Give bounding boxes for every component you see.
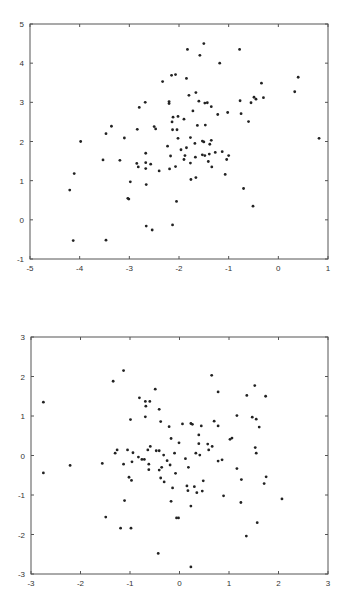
data-point bbox=[157, 552, 160, 555]
data-point bbox=[189, 565, 192, 568]
data-point bbox=[42, 401, 45, 404]
data-point bbox=[138, 396, 141, 399]
data-point bbox=[144, 415, 147, 418]
data-point bbox=[297, 76, 300, 79]
x-tick-label: 0 bbox=[276, 264, 281, 273]
data-point bbox=[123, 137, 126, 140]
data-point bbox=[155, 449, 158, 452]
data-point bbox=[148, 400, 151, 403]
x-tick-label: -3 bbox=[27, 579, 35, 588]
x-tick-label: 1 bbox=[326, 264, 331, 273]
x-tick-label: -2 bbox=[175, 264, 183, 273]
data-point bbox=[159, 477, 162, 480]
data-point bbox=[210, 105, 213, 108]
data-point bbox=[189, 162, 192, 165]
data-point bbox=[210, 139, 213, 142]
data-point bbox=[245, 394, 248, 397]
data-point bbox=[149, 445, 152, 448]
data-point bbox=[227, 154, 230, 157]
data-point bbox=[154, 128, 157, 131]
data-point bbox=[262, 96, 265, 99]
data-point bbox=[123, 499, 126, 502]
data-point bbox=[137, 166, 140, 169]
data-point bbox=[72, 239, 75, 242]
data-point bbox=[177, 517, 180, 520]
data-point bbox=[195, 491, 198, 494]
data-point bbox=[208, 143, 211, 146]
data-point bbox=[202, 42, 205, 45]
y-tick-label: 3 bbox=[21, 333, 26, 342]
data-point bbox=[73, 172, 76, 175]
data-point bbox=[256, 521, 259, 524]
data-point bbox=[240, 112, 243, 115]
data-point bbox=[174, 472, 177, 475]
data-point bbox=[203, 102, 206, 105]
y-tick-label: 2 bbox=[20, 138, 25, 147]
data-point bbox=[135, 162, 138, 165]
data-point bbox=[118, 159, 121, 162]
data-point bbox=[130, 527, 133, 530]
x-tick-label: -1 bbox=[126, 579, 134, 588]
x-tick-label: -2 bbox=[77, 579, 85, 588]
data-point bbox=[147, 463, 150, 466]
data-point bbox=[239, 501, 242, 504]
data-point bbox=[189, 136, 192, 139]
data-point bbox=[42, 471, 45, 474]
data-point bbox=[242, 187, 245, 190]
data-point bbox=[69, 464, 72, 467]
data-point bbox=[186, 48, 189, 51]
data-point bbox=[210, 166, 213, 169]
data-point bbox=[158, 408, 161, 411]
data-point bbox=[129, 180, 132, 183]
data-point bbox=[194, 156, 197, 159]
y-tick-label: 1 bbox=[20, 177, 25, 186]
x-tick-label: -5 bbox=[26, 264, 34, 273]
data-point bbox=[217, 391, 220, 394]
data-point bbox=[170, 500, 173, 503]
data-point bbox=[128, 476, 131, 479]
data-point bbox=[180, 148, 183, 151]
data-point bbox=[201, 153, 204, 156]
data-point bbox=[143, 458, 146, 461]
data-point bbox=[172, 116, 175, 119]
data-point bbox=[194, 91, 197, 94]
data-point bbox=[187, 489, 190, 492]
data-point bbox=[174, 73, 177, 76]
data-point bbox=[188, 94, 191, 97]
data-point bbox=[198, 54, 201, 57]
data-point bbox=[140, 458, 143, 461]
data-point bbox=[200, 424, 203, 427]
y-tick-label: -1 bbox=[17, 255, 25, 264]
data-point bbox=[251, 416, 254, 419]
data-point bbox=[147, 468, 150, 471]
data-point bbox=[191, 423, 194, 426]
data-point bbox=[189, 505, 192, 508]
data-point bbox=[208, 153, 211, 156]
data-point bbox=[281, 498, 284, 501]
data-point bbox=[247, 120, 250, 123]
data-point bbox=[79, 140, 82, 143]
data-point bbox=[255, 418, 258, 421]
data-point bbox=[250, 101, 253, 104]
data-point bbox=[169, 155, 172, 158]
data-point bbox=[122, 369, 125, 372]
data-point bbox=[202, 479, 205, 482]
data-point bbox=[216, 113, 219, 116]
x-tick-label: -3 bbox=[126, 264, 134, 273]
data-point bbox=[185, 77, 188, 80]
data-point bbox=[163, 481, 166, 484]
data-point bbox=[144, 167, 147, 170]
data-point bbox=[255, 452, 258, 455]
data-point bbox=[255, 98, 258, 101]
data-point bbox=[153, 125, 156, 128]
data-point bbox=[101, 462, 104, 465]
data-point bbox=[168, 168, 171, 171]
data-point bbox=[184, 457, 187, 460]
data-point bbox=[318, 137, 321, 140]
data-point bbox=[210, 374, 213, 377]
data-point bbox=[193, 142, 196, 145]
data-point bbox=[144, 400, 147, 403]
data-point bbox=[240, 478, 243, 481]
x-tick-label: 1 bbox=[227, 579, 232, 588]
data-point bbox=[129, 418, 132, 421]
